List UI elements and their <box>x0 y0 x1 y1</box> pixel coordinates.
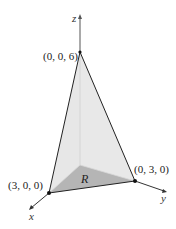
x-axis-label: x <box>28 210 34 222</box>
z-axis-label: z <box>71 12 77 24</box>
z-axis-arrowhead-icon <box>78 14 82 19</box>
tetrahedron-diagram: z x y (0, 0, 6) (3, 0, 0) (0, 3, 0) R <box>0 0 176 229</box>
vertex-apex-dot <box>78 50 81 53</box>
x-intercept-label: (3, 0, 0) <box>8 179 43 192</box>
x-axis <box>31 193 49 208</box>
region-r-label: R <box>80 172 89 186</box>
y-axis-label: y <box>160 192 166 204</box>
vertex-y-dot <box>133 179 137 183</box>
y-intercept-label: (0, 3, 0) <box>134 163 169 176</box>
y-axis <box>135 181 164 191</box>
vertex-x-dot <box>47 191 51 195</box>
apex-label: (0, 0, 6) <box>43 50 78 63</box>
